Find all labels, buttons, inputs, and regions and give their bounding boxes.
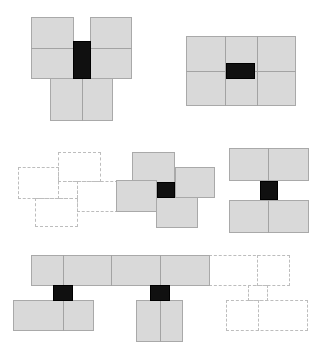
ghost-divider [257, 255, 258, 286]
splitter-handle [157, 182, 175, 198]
ghost-divider [258, 300, 259, 331]
panel-divider [63, 300, 64, 331]
panel-divider [160, 255, 161, 286]
ghost-panel [35, 198, 78, 227]
ghost-panel [248, 285, 268, 301]
splitter-handle [73, 41, 91, 79]
panel-divider [160, 300, 161, 342]
ghost-panel [58, 181, 78, 199]
splitter-handle [260, 181, 278, 200]
panel-divider [63, 255, 64, 286]
splitter-handle [226, 63, 255, 79]
panel-divider [82, 78, 83, 121]
dock-panel [31, 255, 210, 286]
dock-panel [132, 152, 175, 183]
panel-divider [268, 148, 269, 181]
dock-panel [13, 300, 94, 331]
ghost-panel [58, 152, 101, 182]
ghost-panel [226, 300, 308, 331]
panel-divider [268, 200, 269, 233]
panel-divider [257, 36, 258, 106]
splitter-handle [53, 285, 73, 301]
ghost-panel [18, 167, 59, 199]
diagram-canvas [0, 0, 330, 360]
dock-panel [175, 167, 215, 198]
splitter-handle [150, 285, 170, 301]
dock-panel [229, 148, 309, 181]
panel-divider [111, 255, 112, 286]
dock-panel [156, 197, 198, 228]
dock-panel [116, 180, 157, 212]
ghost-panel [77, 181, 118, 212]
ghost-panel [209, 255, 290, 286]
dock-panel [229, 200, 309, 233]
